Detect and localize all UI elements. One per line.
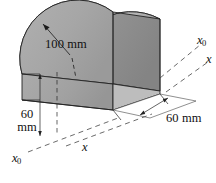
- height-dimension-label-line2: mm: [14, 121, 40, 134]
- axis-label-x-upper-right: x: [206, 52, 212, 67]
- axis-line-x-upper: [166, 62, 208, 92]
- axis-line-x-lower: [66, 114, 152, 146]
- axis-label-x0-lower-left: x0: [12, 151, 21, 166]
- figure-container: 100 mm 60 mm 60 mm x0 x x0 x: [0, 0, 216, 183]
- depth-dimension-label: 60 mm: [166, 112, 202, 125]
- axis-subscript: 0: [202, 38, 206, 48]
- axis-symbol: x: [82, 140, 88, 154]
- axis-symbol: x: [206, 52, 212, 66]
- axis-line-x0-lower: [28, 118, 118, 152]
- axis-label-x0-upper-right: x0: [197, 33, 206, 48]
- axis-label-x-lower-middle: x: [82, 140, 88, 155]
- height-dimension-label-line1: 60: [14, 108, 40, 121]
- solid-figure-drawing: [0, 0, 216, 183]
- solid-body: [20, 0, 160, 110]
- radius-dimension-label: 100 mm: [45, 38, 87, 51]
- axis-subscript: 0: [17, 156, 21, 166]
- height-dimension-label: 60 mm: [14, 108, 40, 133]
- axis-line-x0-upper: [160, 45, 200, 78]
